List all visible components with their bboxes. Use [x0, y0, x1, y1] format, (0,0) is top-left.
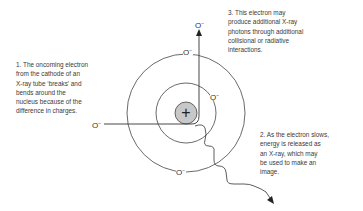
- deflected-electron-arrowhead: [196, 29, 202, 36]
- outer-orbit-electron-top: O−: [183, 47, 193, 57]
- nucleus-plus-symbol: +: [181, 104, 190, 121]
- svg-text:O−: O−: [183, 47, 192, 57]
- svg-text:O−: O−: [195, 20, 204, 30]
- annotation-step-1: 1. The oncoming electron from the cathod…: [16, 60, 126, 116]
- outgoing-electron: O−: [195, 20, 204, 30]
- annotation-step-2: 2. As the electron slows, energy is rele…: [260, 130, 360, 176]
- svg-text:O−: O−: [210, 92, 219, 102]
- incoming-electron: O−: [92, 120, 101, 130]
- annotation-step-3: 3. This electron may produce additional …: [228, 8, 338, 54]
- xray-photon-path: [195, 125, 270, 198]
- inner-orbit-electron: O−: [210, 92, 219, 102]
- xray-arrowhead: [267, 196, 274, 204]
- outer-orbit-electron-bottom: O−: [176, 167, 186, 177]
- svg-text:O−: O−: [176, 167, 185, 177]
- svg-text:O−: O−: [92, 120, 101, 130]
